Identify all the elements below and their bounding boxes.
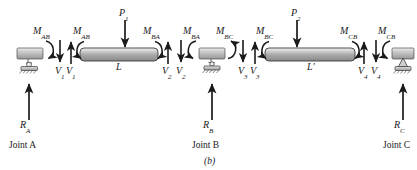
free-body-diagram-figure: MAB MAB MBA MBA MBC MBC MCB MCB P1 P2 V1… [0, 0, 417, 170]
moment-arrow-mab-support [46, 41, 53, 59]
joint-b-ground-hatch [203, 70, 220, 73]
beam-span-ab [80, 48, 158, 61]
moment-arrow-mcb-support [383, 41, 390, 59]
joint-c-ground-hatch [394, 71, 411, 74]
joint-b-roller [210, 62, 214, 66]
moment-arrow-mbc-support [228, 41, 236, 59]
label-moment-mbc-beam: MBC [256, 26, 273, 39]
label-moment-mba-beam: MBA [143, 26, 160, 39]
label-shear-v3-up: V3 [250, 66, 260, 79]
label-reaction-ra: RA [20, 120, 30, 133]
label-moment-mcb-beam: MCB [340, 26, 357, 39]
joint-b-base-plate [204, 66, 220, 70]
label-load-p2: P2 [291, 8, 301, 21]
beam-span-bc [265, 48, 355, 61]
label-reaction-rc: RC [394, 120, 405, 133]
label-moment-mab-beam: MAB [73, 26, 90, 39]
label-moment-mba-support: MBA [183, 26, 200, 39]
label-joint-b: Joint B [192, 140, 219, 150]
label-shear-v2-down: V2 [176, 66, 186, 79]
joint-b-stub-beam [199, 48, 225, 59]
label-span-length-lprime: L′ [307, 62, 315, 72]
joint-c-base-plate [395, 67, 411, 71]
label-moment-mbc-support: MBC [216, 26, 233, 39]
span-bc-group [265, 48, 355, 61]
label-reaction-rb: RB [203, 120, 213, 133]
joint-a-support-group [17, 48, 43, 74]
figure-caption: (b) [204, 156, 215, 166]
joint-c-support-group [392, 48, 414, 74]
label-joint-c: Joint C [383, 140, 410, 150]
label-joint-a: Joint A [9, 140, 36, 150]
label-moment-mab-support: MAB [33, 26, 50, 39]
label-moment-mcb-support: MCB [378, 26, 395, 39]
label-load-p1: P1 [119, 8, 129, 21]
joint-b-support-group [199, 48, 225, 73]
label-shear-v1-down: V1 [55, 66, 65, 79]
joint-a-base-plate [21, 67, 38, 71]
label-shear-v2-up: V2 [162, 66, 172, 79]
joint-a-stub-beam [17, 48, 43, 59]
span-ab-group [80, 48, 158, 61]
label-span-length-l: L [116, 62, 122, 72]
joint-a-ground-hatch [20, 71, 37, 74]
moment-arrow-mba-support [188, 41, 196, 59]
label-shear-v3-down: V3 [238, 66, 248, 79]
label-shear-v4-down: V4 [371, 66, 381, 79]
label-shear-v1-up: V1 [66, 66, 76, 79]
label-shear-v4-up: V4 [358, 66, 368, 79]
